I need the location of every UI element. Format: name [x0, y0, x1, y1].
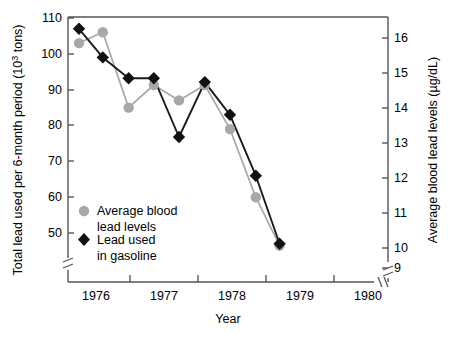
left-tick-label-90: 90 — [48, 83, 62, 97]
left-tick-label-100: 100 — [41, 47, 62, 61]
data-point-blood-lead — [98, 27, 108, 37]
data-point-blood-lead — [174, 95, 184, 105]
left-tick-label-60: 60 — [48, 190, 62, 204]
legend-label-gasoline-line2: in gasoline — [97, 249, 157, 263]
legend-label-blood-line2: lead levels — [97, 220, 156, 234]
right-tick-label-15: 15 — [394, 66, 408, 80]
left-tick-label-80: 80 — [48, 118, 62, 132]
left-tick-label-50: 50 — [48, 226, 62, 240]
x-tick-label-1977: 1977 — [150, 289, 178, 303]
right-axis: 16 15 14 13 12 11 10 9 Average blood lea… — [382, 17, 440, 282]
legend-marker-diamond-icon — [78, 233, 90, 246]
legend-label-blood-line1: Average blood — [97, 204, 177, 218]
right-tick-label-14: 14 — [394, 101, 408, 115]
x-axis: 1976 1977 1978 1979 1980 Year — [68, 275, 388, 326]
x-tick-label-1978: 1978 — [218, 289, 246, 303]
right-tick-label-12: 12 — [394, 171, 408, 185]
right-axis-title: Average blood lead levels (µg/dL) — [426, 57, 440, 243]
left-axis-title: Total lead used per 6-month period (103 … — [10, 25, 26, 276]
left-tick-label-110: 110 — [42, 11, 62, 25]
right-tick-label-10: 10 — [394, 241, 408, 255]
left-axis: 110 100 90 80 70 60 50 Total lead used p… — [10, 11, 75, 282]
legend-label-gasoline-line1: Lead used — [97, 233, 155, 247]
legend-marker-circle-icon — [79, 206, 89, 216]
chart-legend: Average blood lead levels Lead used in g… — [78, 204, 177, 263]
x-tick-label-1979: 1979 — [286, 289, 314, 303]
data-point-gasoline-lead — [250, 170, 262, 182]
x-tick-label-1980: 1980 — [354, 289, 382, 303]
left-tick-label-70: 70 — [48, 154, 62, 168]
x-axis-title: Year — [215, 312, 240, 326]
left-axis-break-icon — [63, 258, 73, 268]
data-point-blood-lead — [74, 38, 84, 48]
data-point-gasoline-lead — [173, 131, 185, 143]
data-point-blood-lead — [225, 124, 235, 134]
right-tick-label-16: 16 — [394, 31, 408, 45]
x-tick-label-1976: 1976 — [82, 289, 110, 303]
left-axis-title-tail: tons) — [11, 25, 25, 56]
right-tick-label-13: 13 — [394, 136, 408, 150]
data-point-blood-lead — [123, 102, 133, 112]
lead-trend-chart: 110 100 90 80 70 60 50 Total lead used p… — [0, 0, 450, 340]
right-tick-label-11: 11 — [394, 206, 407, 220]
right-tick-label-9: 9 — [394, 261, 401, 275]
x-axis-break-icon — [378, 277, 388, 287]
data-point-blood-lead — [251, 192, 261, 202]
left-axis-title-main: Total lead used per 6-month period (10 — [11, 61, 25, 276]
